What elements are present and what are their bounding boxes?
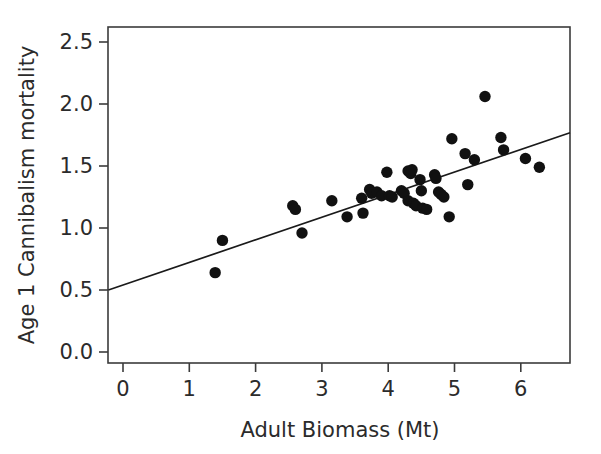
x-tick-label: 0 [116,377,129,401]
x-tick-label: 1 [183,377,196,401]
y-axis-title: Age 1 Cannibalism mortality [15,46,39,345]
data-point [209,267,220,278]
data-point [462,179,473,190]
data-point [416,185,427,196]
y-axis-ticks [99,42,108,352]
y-axis-tick-labels: 0.00.51.01.52.02.5 [60,30,93,364]
plot-frame [108,27,570,363]
data-point [479,91,490,102]
data-point [520,153,531,164]
data-point [443,211,454,222]
y-tick-label: 0.0 [60,340,93,364]
x-axis-tick-labels: 0123456 [116,377,527,401]
data-point [421,204,432,215]
data-point [414,174,425,185]
x-tick-label: 6 [514,377,527,401]
x-axis-ticks [123,363,521,372]
data-point [386,191,397,202]
data-point [217,235,228,246]
data-point [357,207,368,218]
data-point [341,211,352,222]
y-tick-label: 1.0 [60,216,93,240]
x-tick-label: 5 [448,377,461,401]
data-point [290,204,301,215]
regression-line [108,133,570,290]
data-point [446,133,457,144]
scatter-plot-figure: 0.00.51.01.52.02.5 0123456 Age 1 Canniba… [0,0,601,454]
x-tick-label: 3 [315,377,328,401]
data-point [356,193,367,204]
data-points [209,91,545,278]
data-point [430,173,441,184]
y-tick-label: 1.5 [60,154,93,178]
data-point [498,144,509,155]
data-point [381,167,392,178]
x-axis-title: Adult Biomass (Mt) [240,418,439,442]
data-point [495,132,506,143]
data-point [459,148,470,159]
data-point [534,162,545,173]
fit-line [108,133,570,290]
plot-frame-rect [108,27,570,363]
y-tick-label: 2.0 [60,92,93,116]
data-point [326,195,337,206]
x-tick-label: 2 [249,377,262,401]
x-tick-label: 4 [382,377,395,401]
data-point [406,164,417,175]
y-tick-label: 0.5 [60,278,93,302]
plot-canvas: 0.00.51.01.52.02.5 0123456 Age 1 Canniba… [0,0,601,454]
data-point [296,227,307,238]
data-point [438,191,449,202]
data-point [469,154,480,165]
y-tick-label: 2.5 [60,30,93,54]
